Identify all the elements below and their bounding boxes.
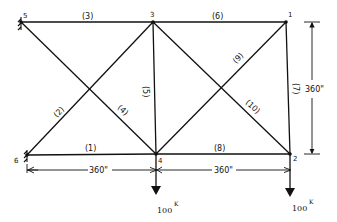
member-label-9: (9) — [231, 51, 245, 65]
node-label-2: 2 — [293, 155, 297, 163]
load-value-node-2: 100 — [292, 204, 307, 213]
horizontal-dimension — [27, 164, 290, 173]
support-node-6 — [24, 150, 27, 162]
truss-diagram: 5 3 1 6 4 2 (1) (2) (3) (4) (5) (6) (7) … — [0, 0, 337, 222]
member-label-4: (4) — [116, 103, 130, 117]
member-7 — [286, 22, 290, 154]
dimension-height: 360" — [305, 85, 324, 94]
member-labels: (1) (2) (3) (4) (5) (6) (7) (8) (9) (10) — [52, 12, 300, 153]
dimension-bay-left: 360" — [89, 166, 108, 175]
member-5 — [153, 22, 156, 154]
member-label-1: (1) — [85, 144, 96, 153]
member-10 — [153, 22, 290, 154]
node-label-4: 4 — [158, 157, 163, 165]
load-node-2: 100 K — [285, 154, 314, 213]
member-label-6: (6) — [212, 12, 223, 21]
member-label-8: (8) — [214, 144, 225, 153]
member-2 — [27, 22, 153, 155]
member-label-2: (2) — [52, 105, 66, 119]
truss-members — [21, 22, 290, 155]
node-label-5: 5 — [23, 12, 27, 20]
joint-1 — [284, 20, 288, 24]
member-label-3: (3) — [82, 12, 93, 21]
joint-3 — [151, 20, 155, 24]
member-label-5: (5) — [141, 86, 150, 97]
load-value-node-4: 100 — [157, 206, 172, 215]
load-node-4: 100 K — [151, 154, 179, 215]
dimension-bay-right: 360" — [214, 166, 233, 175]
member-label-10: (10) — [244, 98, 262, 116]
member-label-7: (7) — [291, 83, 300, 94]
node-label-6: 6 — [14, 157, 19, 165]
node-label-3: 3 — [150, 11, 154, 19]
member-4 — [21, 22, 156, 154]
load-unit-node-2: K — [309, 198, 314, 205]
node-label-1: 1 — [288, 11, 292, 19]
support-node-5 — [18, 17, 21, 30]
member-1 — [27, 154, 156, 155]
load-unit-node-4: K — [174, 200, 179, 207]
